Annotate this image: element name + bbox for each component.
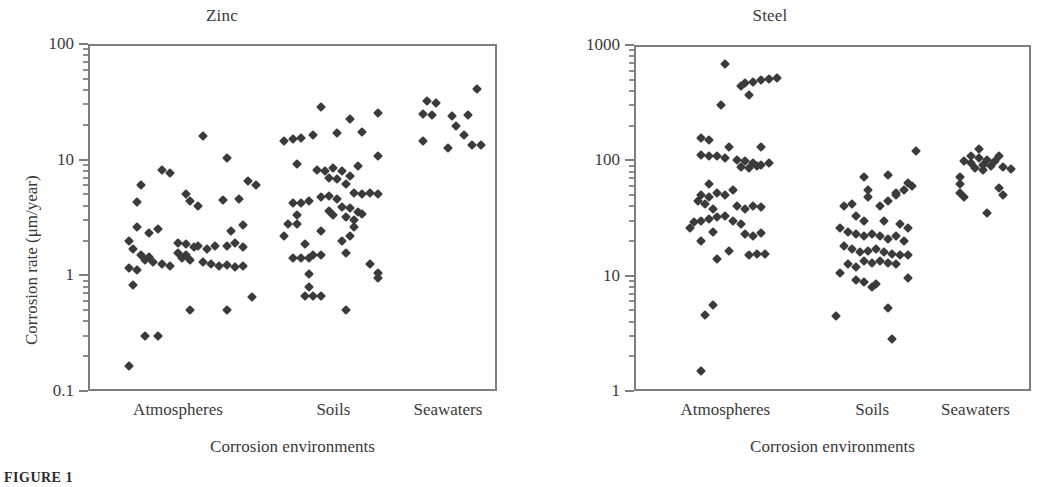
- y-minor-tick-steel: [629, 355, 634, 357]
- y-tick-zinc-3: [79, 43, 88, 45]
- y-minor-tick-steel: [629, 125, 634, 127]
- y-tick-label-steel-3: 1000: [528, 35, 620, 55]
- y-minor-tick-steel: [629, 335, 634, 337]
- y-minor-tick-zinc: [83, 286, 88, 288]
- y-minor-tick-steel: [629, 177, 634, 179]
- y-minor-tick-steel: [629, 293, 634, 295]
- figure-caption-strip: FIGURE 1: [0, 470, 1056, 487]
- y-minor-tick-zinc: [83, 280, 88, 282]
- y-tick-zinc-0: [79, 390, 88, 392]
- y-tick-zinc-1: [79, 274, 88, 276]
- y-minor-tick-steel: [629, 79, 634, 81]
- y-minor-tick-zinc: [83, 335, 88, 337]
- y-minor-tick-steel: [629, 90, 634, 92]
- y-minor-tick-steel: [629, 70, 634, 72]
- y-minor-tick-steel: [629, 321, 634, 323]
- y-minor-tick-steel: [629, 300, 634, 302]
- y-minor-tick-steel: [629, 62, 634, 64]
- chart-panel-steel: Steel 1101001000AtmospheresSoilsSeawater…: [528, 0, 1056, 462]
- y-tick-label-steel-2: 100: [528, 150, 620, 170]
- y-minor-tick-steel: [629, 205, 634, 207]
- figure-root: Zinc 0.1110100AtmospheresSoilsSeawatersC…: [0, 0, 1056, 487]
- panel-title-steel: Steel: [506, 6, 1034, 26]
- y-minor-tick-zinc: [83, 184, 88, 186]
- y-minor-tick-zinc: [83, 124, 88, 126]
- y-minor-tick-steel: [629, 55, 634, 57]
- x-axis-title-zinc: Corrosion environments: [210, 437, 375, 457]
- x-axis-title-steel: Corrosion environments: [750, 437, 915, 457]
- plot-frame-steel: [634, 45, 1031, 391]
- y-axis-title-zinc: Corrosion rate (μm/year): [22, 175, 42, 345]
- y-minor-tick-steel: [629, 220, 634, 222]
- y-tick-label-zinc-3: 100: [0, 34, 74, 54]
- y-minor-tick-zinc: [83, 61, 88, 63]
- y-minor-tick-zinc: [83, 240, 88, 242]
- y-minor-tick-zinc: [83, 89, 88, 91]
- y-minor-tick-steel: [629, 280, 634, 282]
- chart-panel-zinc: Zinc 0.1110100AtmospheresSoilsSeawatersC…: [0, 0, 528, 462]
- y-tick-steel-1: [625, 275, 634, 277]
- y-minor-tick-steel: [629, 194, 634, 196]
- y-tick-label-zinc-0: 0.1: [0, 381, 74, 401]
- y-minor-tick-steel: [629, 171, 634, 173]
- y-minor-tick-zinc: [83, 54, 88, 56]
- y-minor-tick-zinc: [83, 48, 88, 50]
- panel-title-zinc: Zinc: [0, 6, 486, 26]
- x-tick-label-zinc-0: Atmospheres: [133, 400, 223, 420]
- y-minor-tick-steel: [629, 286, 634, 288]
- y-minor-tick-steel: [629, 309, 634, 311]
- y-minor-tick-zinc: [83, 69, 88, 71]
- y-minor-tick-zinc: [83, 292, 88, 294]
- x-tick-label-steel-0: Atmospheres: [680, 400, 770, 420]
- y-minor-tick-zinc: [83, 170, 88, 172]
- plot-frame-zinc: [88, 44, 497, 391]
- y-minor-tick-steel: [629, 104, 634, 106]
- x-tick-label-steel-1: Soils: [855, 400, 889, 420]
- y-minor-tick-zinc: [83, 103, 88, 105]
- y-minor-tick-zinc: [83, 300, 88, 302]
- y-tick-steel-3: [625, 44, 634, 46]
- y-minor-tick-zinc: [83, 219, 88, 221]
- y-minor-tick-zinc: [83, 193, 88, 195]
- y-minor-tick-zinc: [83, 309, 88, 311]
- y-minor-tick-zinc: [83, 205, 88, 207]
- y-minor-tick-steel: [629, 185, 634, 187]
- y-tick-steel-2: [625, 159, 634, 161]
- y-tick-label-steel-1: 10: [528, 266, 620, 286]
- y-minor-tick-zinc: [83, 177, 88, 179]
- y-minor-tick-zinc: [83, 355, 88, 357]
- y-tick-zinc-2: [79, 159, 88, 161]
- x-tick-label-steel-2: Seawaters: [941, 400, 1010, 420]
- figure-caption: FIGURE 1: [4, 470, 73, 486]
- y-minor-tick-steel: [629, 49, 634, 51]
- x-tick-label-zinc-1: Soils: [316, 400, 350, 420]
- y-tick-label-steel-0: 1: [528, 381, 620, 401]
- y-tick-label-zinc-2: 10: [0, 150, 74, 170]
- x-tick-label-zinc-2: Seawaters: [413, 400, 482, 420]
- y-minor-tick-zinc: [83, 78, 88, 80]
- y-minor-tick-zinc: [83, 320, 88, 322]
- y-tick-steel-0: [625, 390, 634, 392]
- y-minor-tick-steel: [629, 165, 634, 167]
- y-minor-tick-steel: [629, 240, 634, 242]
- y-minor-tick-zinc: [83, 164, 88, 166]
